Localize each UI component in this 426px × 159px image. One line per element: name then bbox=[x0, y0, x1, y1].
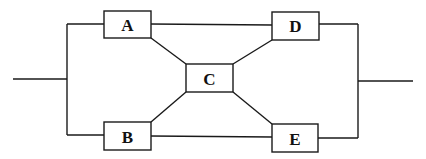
node-C: C bbox=[186, 64, 233, 92]
node-B-label: B bbox=[122, 128, 133, 147]
wire-A-to-D bbox=[151, 24, 272, 25]
wire-A-to-C bbox=[151, 38, 186, 64]
node-E-label: E bbox=[289, 130, 300, 149]
wire-C-to-E bbox=[233, 92, 272, 124]
node-D-label: D bbox=[289, 17, 301, 36]
wire-B-to-C bbox=[151, 92, 186, 122]
wire-B-to-E bbox=[151, 136, 272, 137]
wire-C-to-D bbox=[233, 40, 272, 64]
node-A: A bbox=[104, 11, 151, 38]
node-D: D bbox=[272, 12, 319, 40]
node-C-label: C bbox=[203, 70, 215, 89]
node-E: E bbox=[272, 124, 318, 152]
node-B: B bbox=[104, 122, 151, 150]
node-A-label: A bbox=[121, 16, 134, 35]
bridge-network-diagram: A B C D E bbox=[0, 0, 426, 159]
